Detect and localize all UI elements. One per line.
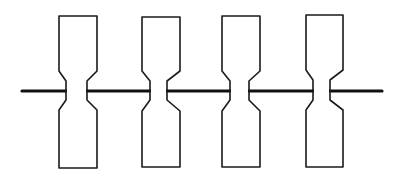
dogbone-diagram xyxy=(0,0,401,182)
specimen-gap xyxy=(231,81,248,100)
specimen-gap xyxy=(67,81,86,100)
specimen-gap xyxy=(314,80,329,100)
specimen-gap xyxy=(151,81,166,100)
